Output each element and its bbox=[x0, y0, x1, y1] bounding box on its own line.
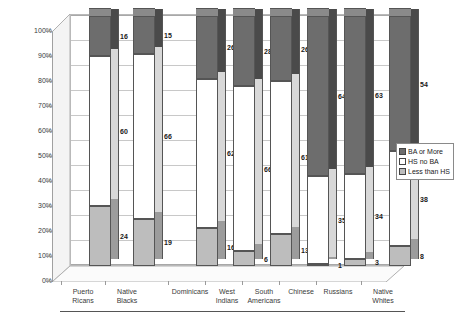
bar-value-label: 66 bbox=[164, 133, 172, 140]
bar-value-label: 54 bbox=[420, 81, 428, 88]
bar-top-face bbox=[133, 8, 155, 16]
chart-legend: BA or More HS no BA Less than HS bbox=[396, 143, 454, 180]
bar-value-label: 63 bbox=[375, 92, 383, 99]
legend-item: HS no BA bbox=[399, 156, 450, 166]
bar-segment bbox=[233, 16, 255, 86]
x-axis-tick bbox=[242, 281, 243, 285]
bar-segment-side bbox=[255, 244, 263, 259]
bar-stack: 196615 bbox=[133, 16, 155, 266]
bar-segment bbox=[233, 86, 255, 251]
bar-segment bbox=[270, 81, 292, 234]
bar-column: 246016 bbox=[89, 16, 111, 266]
bar-value-label: 38 bbox=[420, 196, 428, 203]
bar-segment bbox=[270, 16, 292, 81]
y-axis-tick bbox=[46, 56, 52, 57]
bar-segment bbox=[196, 79, 218, 228]
x-axis-label-line: Whites bbox=[353, 296, 413, 305]
bar-segment bbox=[344, 174, 366, 259]
bar-segment bbox=[89, 56, 111, 206]
chart-figure: 2460161966151662266662813612613564334638… bbox=[0, 0, 463, 324]
bar-column: 13564 bbox=[307, 16, 329, 266]
y-axis-tick bbox=[46, 81, 52, 82]
bar-segment-side bbox=[155, 212, 163, 260]
bar-top-face bbox=[307, 8, 329, 16]
bar-segment-side bbox=[155, 47, 163, 212]
legend-label-less-than-hs: Less than HS bbox=[408, 168, 450, 175]
bar-stack: 136126 bbox=[270, 16, 292, 266]
bar-column: 166226 bbox=[196, 16, 218, 266]
x-axis-label-line: Native bbox=[97, 287, 157, 296]
x-axis-tick bbox=[316, 281, 317, 285]
bar-column: 83854 bbox=[389, 16, 411, 266]
y-axis-tick bbox=[46, 206, 52, 207]
bar-stack: 33463 bbox=[344, 16, 366, 266]
y-axis-tick bbox=[46, 106, 52, 107]
bar-value-label: 1 bbox=[338, 262, 342, 269]
bar-segment-side bbox=[329, 257, 337, 260]
bar-stack: 166226 bbox=[196, 16, 218, 266]
legend-swatch-hs-no-ba bbox=[399, 158, 406, 165]
bar-segment bbox=[233, 251, 255, 266]
bar-value-label: 19 bbox=[164, 239, 172, 246]
bar-stack: 246016 bbox=[89, 16, 111, 266]
bar-segment-side bbox=[218, 221, 226, 259]
bar-segment-side bbox=[155, 9, 163, 47]
bar-segment bbox=[344, 259, 366, 267]
bar-segment bbox=[307, 16, 329, 176]
bar-segment-side bbox=[111, 49, 119, 199]
bar-series-group: 2460161966151662266662813612613564334638… bbox=[52, 14, 404, 282]
legend-label-hs-no-ba: HS no BA bbox=[408, 158, 439, 165]
bar-segment bbox=[196, 228, 218, 266]
bar-value-label: 3 bbox=[375, 259, 379, 266]
x-axis-tick bbox=[168, 281, 169, 285]
footer-rule bbox=[60, 311, 405, 312]
x-axis-label-line: Native bbox=[353, 287, 413, 296]
y-axis-tick bbox=[46, 256, 52, 257]
bar-column: 196615 bbox=[133, 16, 155, 266]
bar-segment-side bbox=[366, 9, 374, 167]
bar-segment-side bbox=[292, 9, 300, 74]
bar-segment bbox=[307, 176, 329, 264]
bar-segment bbox=[89, 16, 111, 56]
bar-segment bbox=[89, 206, 111, 266]
bar-stack: 66628 bbox=[233, 16, 255, 266]
x-axis-tick bbox=[205, 281, 206, 285]
y-axis-tick bbox=[46, 31, 52, 32]
bar-segment-side bbox=[366, 167, 374, 252]
bar-segment-side bbox=[292, 227, 300, 260]
legend-item: BA or More bbox=[399, 146, 450, 156]
bar-segment-side bbox=[292, 74, 300, 227]
legend-swatch-less-than-hs bbox=[399, 168, 406, 175]
x-axis-tick bbox=[279, 281, 280, 285]
bar-segment-side bbox=[366, 252, 374, 260]
bar-segment-side bbox=[255, 79, 263, 244]
legend-swatch-ba-or-more bbox=[399, 148, 406, 155]
bar-segment bbox=[389, 16, 411, 151]
bar-segment-side bbox=[111, 9, 119, 49]
bar-column: 33463 bbox=[344, 16, 366, 266]
y-axis-tick bbox=[46, 231, 52, 232]
bar-value-label: 60 bbox=[120, 128, 128, 135]
bar-segment bbox=[344, 16, 366, 174]
bar-segment bbox=[307, 264, 329, 267]
x-axis-tick bbox=[61, 281, 62, 285]
x-axis-tick bbox=[361, 281, 362, 285]
x-axis-category-label: NativeBlacks bbox=[97, 287, 157, 305]
bar-top-face bbox=[89, 8, 111, 16]
bar-segment-side bbox=[218, 72, 226, 221]
bar-segment bbox=[133, 54, 155, 219]
plot-area: 2460161966151662266662813612613564334638… bbox=[52, 14, 404, 282]
bar-segment bbox=[133, 16, 155, 54]
bar-top-face bbox=[389, 8, 411, 16]
bar-segment bbox=[270, 234, 292, 267]
bar-segment-side bbox=[329, 169, 337, 257]
y-axis: 100%90%80%70%60%50%40%30%20%10%0% bbox=[0, 0, 52, 282]
bar-top-face bbox=[344, 8, 366, 16]
y-axis-tick bbox=[46, 181, 52, 182]
bar-top-face bbox=[270, 8, 292, 16]
bar-top-face bbox=[196, 8, 218, 16]
bar-value-label: 16 bbox=[120, 33, 128, 40]
y-axis-tick bbox=[46, 156, 52, 157]
y-axis-tick bbox=[46, 131, 52, 132]
bar-segment-side bbox=[411, 9, 419, 144]
